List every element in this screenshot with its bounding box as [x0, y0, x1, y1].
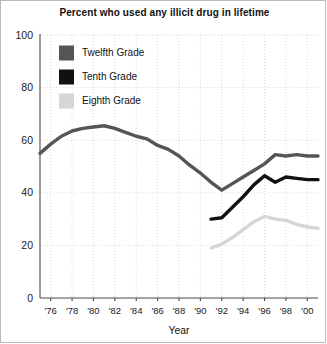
x-axis-tick-label: '78 — [66, 305, 78, 316]
legend-swatch — [59, 70, 74, 85]
y-axis-tick-label: 100 — [15, 29, 33, 41]
x-axis-tick-label: '80 — [87, 305, 99, 316]
x-axis-tick-label: '00 — [301, 305, 313, 316]
x-axis-tick-label: '88 — [173, 305, 185, 316]
y-axis-tick-label: 80 — [21, 81, 33, 93]
y-axis-tick-label: 60 — [21, 134, 33, 146]
legend-label: Twelfth Grade — [82, 47, 145, 58]
x-axis-title: Year — [168, 324, 190, 336]
chart-frame: Percent who used any illicit drug in lif… — [0, 0, 326, 343]
x-axis-tick-label: '92 — [216, 305, 228, 316]
x-axis-tick-label: '98 — [280, 305, 292, 316]
y-axis-tick-label: 20 — [21, 239, 33, 251]
y-axis-tick-label: 0 — [27, 292, 33, 304]
legend-label: Tenth Grade — [82, 71, 137, 82]
chart-plot: 020406080100'76'78'80'82'84'86'88'90'92'… — [1, 1, 327, 344]
x-axis-tick-label: '94 — [237, 305, 249, 316]
x-axis-tick-label: '86 — [151, 305, 163, 316]
legend-swatch — [59, 46, 74, 61]
x-axis-tick-label: '96 — [258, 305, 270, 316]
x-axis-tick-label: '76 — [44, 305, 56, 316]
legend-swatch — [59, 94, 74, 109]
x-axis-tick-label: '82 — [109, 305, 121, 316]
legend-label: Eighth Grade — [82, 95, 141, 106]
x-axis-tick-label: '84 — [130, 305, 142, 316]
y-axis-tick-label: 40 — [21, 186, 33, 198]
x-axis-tick-label: '90 — [194, 305, 206, 316]
